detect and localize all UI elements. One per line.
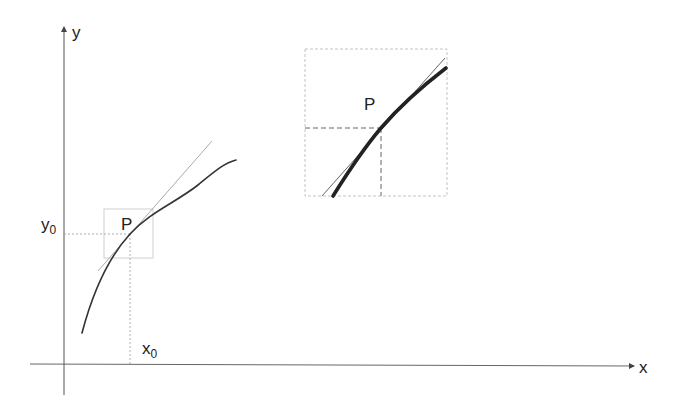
y0-label-sub: 0	[50, 223, 57, 237]
x-axis	[30, 364, 634, 366]
inset-curve	[333, 68, 446, 196]
inset-box	[305, 49, 447, 196]
point-p-label: P	[121, 216, 132, 233]
y0-label: y0	[41, 216, 56, 233]
x-axis-label: x	[639, 359, 648, 376]
x0-label-base: x	[142, 339, 151, 358]
function-curve	[82, 160, 236, 333]
tangent-line	[98, 141, 212, 271]
diagram-canvas	[0, 0, 678, 404]
x0-label: x0	[142, 340, 157, 357]
inset-point-p-label: P	[364, 96, 375, 113]
y0-label-base: y	[41, 215, 50, 234]
y-axis-label: y	[72, 24, 81, 41]
x0-label-sub: 0	[151, 347, 158, 361]
